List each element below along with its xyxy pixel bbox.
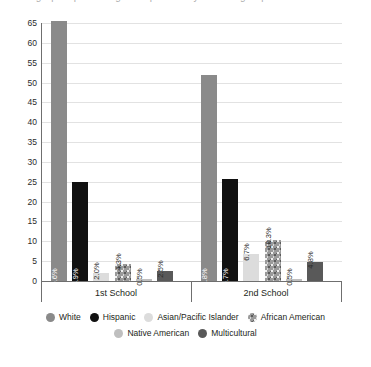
bar-value-label: 4.3% [114, 253, 123, 271]
bar-fill [51, 21, 67, 281]
gridline [42, 23, 342, 24]
bar-value-label: 0.5% [135, 268, 144, 286]
bar: 0.5% [286, 279, 302, 281]
y-axis-tick-label: 65 [9, 19, 37, 28]
x-axis-group-divider [191, 282, 192, 302]
bar-value-label: 24.9% [71, 268, 80, 290]
bar: 6.7% [243, 254, 259, 281]
bar: 4.8% [307, 262, 323, 281]
y-axis-tick-label: 45 [9, 98, 37, 107]
bar: 24.9% [72, 182, 88, 281]
y-axis-tick-label: 25 [9, 177, 37, 186]
y-axis-tick-label: 50 [9, 78, 37, 87]
bar-fill [201, 75, 217, 281]
gridline [42, 83, 342, 84]
y-axis-tick-label: 10 [9, 237, 37, 246]
gridline [42, 162, 342, 163]
legend-label: Native American [127, 328, 189, 338]
legend-row-2: Native AmericanMulticultural [0, 328, 371, 338]
bar: 10.3% [265, 240, 281, 281]
bar-value-label: 65.6% [50, 268, 59, 290]
bar: 51.8% [201, 75, 217, 281]
y-axis-tick-label: 60 [9, 38, 37, 47]
gridline [42, 63, 342, 64]
legend-swatch-icon [114, 329, 123, 338]
gridline [42, 102, 342, 103]
y-axis-tick-label: 0 [9, 277, 37, 286]
x-axis-group-divider [341, 282, 342, 302]
x-axis-group-divider [41, 282, 42, 302]
y-axis-tick-label: 30 [9, 157, 37, 166]
x-axis-group-label: 2nd School [191, 288, 341, 298]
legend-item[interactable]: Native American [114, 328, 189, 338]
legend-swatch-icon [248, 313, 257, 322]
bar-value-label: 25.7% [221, 268, 230, 290]
x-axis-group-label: 1st School [41, 288, 191, 298]
legend-item[interactable]: Multicultural [198, 328, 256, 338]
clipped-title-strip: Demographic percentage comparison by stu… [0, 0, 371, 9]
bar-value-label: 2.5% [156, 260, 165, 278]
y-axis-tick-label: 20 [9, 197, 37, 206]
bar-value-label: 0.5% [285, 268, 294, 286]
bar-value-label: 2.0% [92, 262, 101, 280]
legend-swatch-icon [144, 313, 153, 322]
y-axis-tick-label: 5 [9, 257, 37, 266]
legend-label: African American [261, 312, 325, 322]
legend: WhiteHispanicAsian/Pacific IslanderAfric… [0, 312, 371, 344]
clipped-title-text: Demographic percentage comparison by stu… [8, 0, 267, 2]
bar: 65.6% [51, 21, 67, 281]
bar-fill [72, 182, 88, 281]
y-axis-tick-label: 55 [9, 58, 37, 67]
legend-item[interactable]: Hispanic [90, 312, 136, 322]
legend-label: White [59, 312, 81, 322]
legend-row-1: WhiteHispanicAsian/Pacific IslanderAfric… [0, 312, 371, 322]
legend-item[interactable]: Asian/Pacific Islander [144, 312, 238, 322]
bar-value-label: 6.7% [242, 244, 251, 262]
y-axis-tick-label: 35 [9, 138, 37, 147]
legend-swatch-icon [46, 313, 55, 322]
legend-swatch-icon [90, 313, 99, 322]
legend-label: Multicultural [211, 328, 256, 338]
legend-swatch-icon [198, 329, 207, 338]
gridline [42, 122, 342, 123]
bar-value-label: 10.3% [264, 227, 273, 249]
bar: 2.0% [93, 273, 109, 281]
legend-item[interactable]: African American [248, 312, 325, 322]
bar: 25.7% [222, 179, 238, 281]
gridline [42, 142, 342, 143]
gridline [42, 43, 342, 44]
bar-value-label: 4.8% [306, 251, 315, 269]
bar: 0.5% [136, 279, 152, 281]
legend-label: Asian/Pacific Islander [157, 312, 238, 322]
legend-label: Hispanic [103, 312, 136, 322]
y-axis-tick-label: 15 [9, 217, 37, 226]
plot-area: 65.6%24.9%2.0%4.3%0.5%2.5%51.8%25.7%6.7%… [41, 23, 342, 282]
bar: 4.3% [115, 264, 131, 281]
legend-item[interactable]: White [46, 312, 81, 322]
bar-fill [222, 179, 238, 281]
y-axis-tick-label: 40 [9, 118, 37, 127]
bar-value-label: 51.8% [200, 268, 209, 290]
bar-chart: 65.6%24.9%2.0%4.3%0.5%2.5%51.8%25.7%6.7%… [0, 9, 371, 309]
bar: 2.5% [157, 271, 173, 281]
